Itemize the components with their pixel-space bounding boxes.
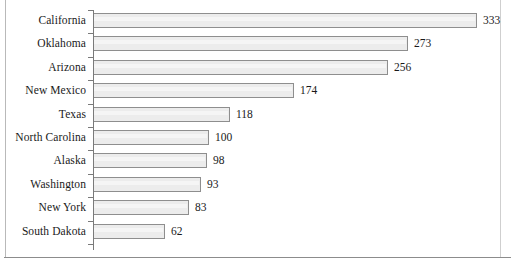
plot-area: California333Oklahoma273Arizona256New Me… (0, 0, 515, 250)
category-label: Texas (0, 107, 86, 122)
bar-highlight (94, 87, 292, 91)
axis-tick (88, 33, 94, 34)
bar-row: Washington93 (0, 177, 515, 200)
axis-tick (88, 10, 94, 11)
bar-container (94, 13, 477, 28)
bar-highlight (94, 134, 207, 138)
category-label: New York (0, 200, 86, 215)
category-label: South Dakota (0, 224, 86, 239)
bar-highlight (94, 111, 228, 115)
axis-tick (88, 104, 94, 105)
bar (94, 13, 477, 28)
bar-row: Arizona256 (0, 60, 515, 83)
bar-value-label: 273 (414, 36, 431, 51)
bar (94, 153, 207, 168)
bar-chart-figure: California333Oklahoma273Arizona256New Me… (0, 0, 515, 265)
category-label: Alaska (0, 153, 86, 168)
bar-highlight (94, 157, 205, 161)
bar (94, 177, 201, 192)
category-label: Washington (0, 177, 86, 192)
bar-row: New Mexico174 (0, 83, 515, 106)
axis-tick (88, 221, 94, 222)
bar-highlight (94, 17, 475, 21)
bar-container (94, 177, 201, 192)
bar (94, 36, 408, 51)
bar-row: New York83 (0, 200, 515, 223)
bar-container (94, 153, 207, 168)
bar-value-label: 256 (394, 60, 411, 75)
category-label: North Carolina (0, 130, 86, 145)
bar-highlight (94, 181, 199, 185)
bar-value-label: 174 (300, 83, 317, 98)
bar (94, 107, 230, 122)
bar (94, 60, 388, 75)
bar-value-label: 62 (171, 224, 183, 239)
bar-container (94, 83, 294, 98)
bar-container (94, 60, 388, 75)
axis-tick (88, 150, 94, 151)
axis-tick (88, 80, 94, 81)
bar-value-label: 333 (483, 13, 500, 28)
bar-row: Alaska98 (0, 153, 515, 176)
bar-row: South Dakota62 (0, 224, 515, 247)
bar-row: Texas118 (0, 107, 515, 130)
bar-row: North Carolina100 (0, 130, 515, 153)
bar-value-label: 83 (195, 200, 207, 215)
bar-value-label: 93 (207, 177, 219, 192)
bar-highlight (94, 204, 187, 208)
bar-value-label: 118 (236, 107, 253, 122)
bar (94, 130, 209, 145)
bar (94, 83, 294, 98)
bar (94, 224, 165, 239)
bar-highlight (94, 64, 386, 68)
bar-value-label: 98 (213, 153, 225, 168)
bar-row: Oklahoma273 (0, 36, 515, 59)
bar-container (94, 224, 165, 239)
category-label: Oklahoma (0, 36, 86, 51)
bar-container (94, 107, 230, 122)
category-label: Arizona (0, 60, 86, 75)
bar (94, 200, 189, 215)
axis-tick (88, 197, 94, 198)
bar-value-label: 100 (215, 130, 232, 145)
bar-container (94, 36, 408, 51)
axis-tick (88, 127, 94, 128)
axis-tick (88, 174, 94, 175)
category-label: New Mexico (0, 83, 86, 98)
category-label: California (0, 13, 86, 28)
bar-highlight (94, 228, 163, 232)
bar-row: California333 (0, 13, 515, 36)
bar-container (94, 200, 189, 215)
frame-bottom-rule (4, 257, 511, 258)
axis-tick (88, 57, 94, 58)
bar-container (94, 130, 209, 145)
bar-highlight (94, 40, 406, 44)
axis-tick (88, 244, 94, 245)
